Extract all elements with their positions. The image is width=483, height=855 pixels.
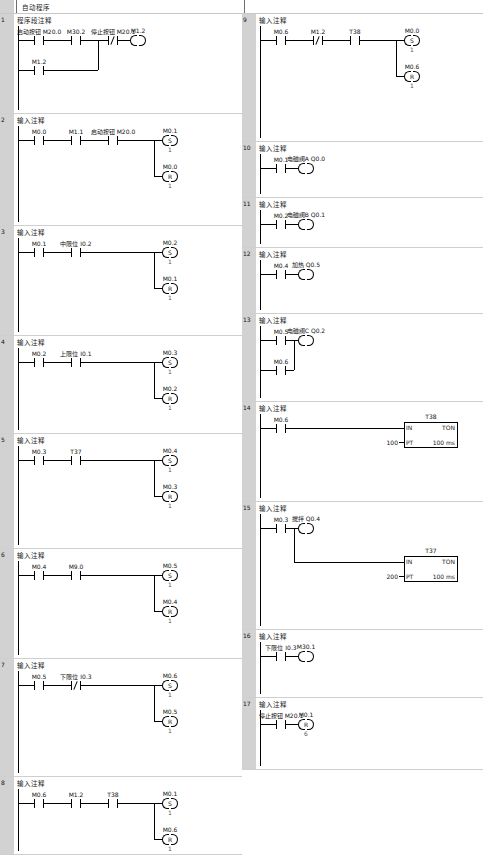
network-canvas: 下限位 I0.3M30.1 — [256, 640, 483, 697]
network-gutter: 12 — [242, 248, 256, 313]
coil-s[interactable]: S — [162, 570, 178, 581]
network-rung[interactable]: 8输入注释M0.6M1.2T38SM0.11RM0.61 — [0, 777, 242, 855]
coil-r[interactable]: R — [162, 834, 178, 845]
coil-output[interactable] — [298, 163, 314, 174]
coil-s[interactable]: S — [162, 357, 178, 368]
network-rung[interactable]: 1程序段注释启动按钮 M20.0M30.2停止按钮 M20.1M1.2M1.2 — [0, 14, 242, 114]
contact-no[interactable] — [34, 66, 44, 75]
contact-no[interactable] — [34, 456, 44, 465]
contact-bar-left — [34, 136, 35, 145]
contact-no[interactable] — [276, 164, 286, 173]
network-number: 1 — [1, 16, 5, 23]
wire-segment — [260, 724, 276, 725]
coil-s[interactable]: S — [162, 798, 178, 809]
coil-r[interactable]: R — [162, 393, 178, 404]
coil-output[interactable] — [298, 523, 314, 534]
coil-output[interactable] — [298, 335, 314, 346]
coil-mode-label: R — [298, 721, 314, 728]
contact-no[interactable] — [71, 358, 81, 367]
contact-label: 上限位 I0.1 — [53, 350, 99, 357]
coil-s[interactable]: S — [162, 680, 178, 691]
contact-no[interactable] — [276, 36, 286, 45]
network-rung[interactable]: 4输入注释M0.2上限位 I0.1SM0.31RM0.21 — [0, 336, 242, 434]
contact-no[interactable] — [276, 366, 286, 375]
timer-box[interactable]: INTONPT100 ms — [404, 422, 458, 448]
contact-no[interactable] — [34, 681, 44, 690]
network-rung[interactable]: 16输入注释下限位 I0.3M30.1 — [242, 630, 483, 698]
network-rung[interactable]: 11输入注释M0.2电磁阀B Q0.1 — [242, 198, 483, 248]
network-rung[interactable]: 15输入注释M0.3搅拌 Q0.4INTONPT100 msT37200 — [242, 502, 483, 630]
network-gutter: 8 — [0, 777, 14, 854]
contact-no[interactable] — [108, 799, 118, 808]
coil-r[interactable]: R — [162, 171, 178, 182]
contact-nc[interactable] — [108, 36, 118, 45]
contact-no[interactable] — [71, 36, 81, 45]
network-rung[interactable]: 14输入注释M0.6INTONPT100 msT38100 — [242, 402, 483, 502]
coil-output[interactable] — [130, 35, 146, 46]
wire-segment — [18, 460, 34, 461]
network-number: 13 — [243, 316, 251, 323]
contact-no[interactable] — [71, 248, 81, 257]
contact-no[interactable] — [34, 799, 44, 808]
contact-no[interactable] — [276, 424, 286, 433]
power-rail — [18, 26, 19, 110]
contact-no[interactable] — [276, 720, 286, 729]
contact-bar-left — [276, 424, 277, 433]
network-rung[interactable]: 17输入注释停止按钮 M20.1RM0.16 — [242, 698, 483, 770]
timer-box[interactable]: INTONPT100 ms — [404, 556, 458, 582]
contact-bar-left — [34, 456, 35, 465]
contact-label: 启动按钮 M20.0 — [90, 128, 136, 135]
coil-s[interactable]: S — [162, 135, 178, 146]
network-rung[interactable]: 10输入注释M0.1电磁阀A Q0.0 — [242, 142, 483, 198]
contact-no[interactable] — [34, 136, 44, 145]
contact-no[interactable] — [34, 571, 44, 580]
network-rung[interactable]: 3输入注释M0.1中限位 I0.2SM0.21RM0.11 — [0, 226, 242, 336]
contact-no[interactable] — [350, 36, 360, 45]
coil-output[interactable] — [298, 651, 314, 662]
network-rung[interactable]: 6输入注释M0.4M9.0SM0.51RM0.41 — [0, 549, 242, 659]
network-rung[interactable]: 5输入注释M0.3T37SM0.41RM0.31 — [0, 434, 242, 549]
contact-no[interactable] — [71, 136, 81, 145]
contact-no[interactable] — [34, 248, 44, 257]
coil-s[interactable]: S — [404, 35, 420, 46]
contact-nc[interactable] — [71, 681, 81, 690]
contact-no[interactable] — [276, 652, 286, 661]
coil-s[interactable]: S — [162, 247, 178, 258]
network-canvas: M0.6INTONPT100 msT38100 — [256, 412, 483, 501]
coil-r[interactable]: R — [298, 719, 314, 730]
coil-r[interactable]: R — [162, 606, 178, 617]
network-rung[interactable]: 12输入注释M0.4加热 Q0.5 — [242, 248, 483, 314]
coil-r[interactable]: R — [404, 71, 420, 82]
wire-segment — [118, 803, 162, 804]
contact-no[interactable] — [34, 36, 44, 45]
wire-segment — [260, 168, 276, 169]
network-body: 输入注释M0.1电磁阀A Q0.0 — [256, 142, 483, 197]
wire-segment — [260, 656, 276, 657]
contact-nc[interactable] — [313, 36, 323, 45]
contact-no[interactable] — [276, 220, 286, 229]
contact-no[interactable] — [108, 136, 118, 145]
network-rung[interactable]: 9输入注释M0.6M1.2T38SM0.01RM0.61 — [242, 14, 483, 142]
coil-r[interactable]: R — [162, 283, 178, 294]
coil-r[interactable]: R — [162, 491, 178, 502]
wire-segment — [286, 224, 298, 225]
network-rung[interactable]: 13输入注释M0.5电磁阀C Q0.2M0.6 — [242, 314, 483, 402]
network-gutter: 9 — [242, 14, 256, 141]
coil-mode-label: R — [162, 493, 178, 500]
network-rung[interactable]: 7输入注释M0.5下限位 I0.3SM0.61RM0.51 — [0, 659, 242, 777]
wire-segment — [81, 460, 162, 461]
coil-output[interactable] — [298, 269, 314, 280]
coil-s[interactable]: S — [162, 455, 178, 466]
coil-output[interactable] — [298, 219, 314, 230]
contact-no[interactable] — [276, 270, 286, 279]
wire-segment — [286, 40, 313, 41]
network-rung[interactable]: 2输入注释M0.0M1.1启动按钮 M20.0SM0.11RM0.01 — [0, 114, 242, 226]
network-gutter: 5 — [0, 434, 14, 548]
coil-r[interactable]: R — [162, 716, 178, 727]
contact-no[interactable] — [71, 799, 81, 808]
contact-no[interactable] — [71, 571, 81, 580]
contact-no[interactable] — [276, 336, 286, 345]
contact-no[interactable] — [71, 456, 81, 465]
contact-no[interactable] — [276, 524, 286, 533]
contact-no[interactable] — [34, 358, 44, 367]
